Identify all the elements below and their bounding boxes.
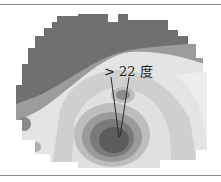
annotation-label: > 22 度	[104, 61, 153, 80]
contour-map	[0, 0, 221, 182]
figure-frame: > 22 度	[0, 0, 221, 182]
bottom-rule	[0, 175, 221, 176]
